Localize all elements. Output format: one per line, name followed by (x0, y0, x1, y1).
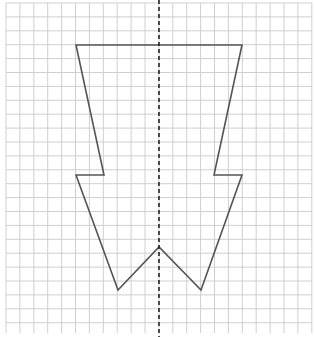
grid-diagram (0, 0, 314, 337)
